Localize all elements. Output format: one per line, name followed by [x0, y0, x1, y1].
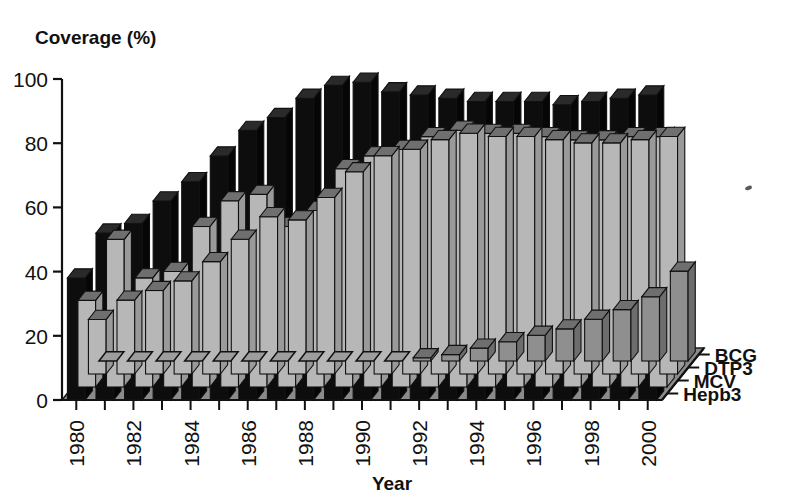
bar-front-face	[117, 300, 135, 374]
bar-mcv-1992	[431, 130, 456, 374]
bar-front-face	[470, 348, 488, 361]
bar-mcv-1987	[288, 211, 313, 374]
y-axis-tick-label: 20	[25, 325, 48, 348]
bar-front-face	[88, 319, 106, 374]
x-axis-tick-label: 2000	[637, 420, 660, 467]
bar-front-face	[528, 335, 546, 361]
bar-hepb3-1996	[556, 320, 581, 361]
bar-mcv-1986	[260, 208, 285, 374]
x-axis-tick-label: 1994	[465, 420, 488, 467]
x-axis-tick-label: 1982	[122, 420, 145, 467]
bar-front-face	[642, 297, 660, 361]
bar-front-face	[403, 149, 421, 374]
bar-hepb3-1995	[528, 326, 553, 361]
bar-mcv-1988	[317, 188, 342, 374]
bar-hepb3-1997	[585, 310, 610, 361]
bar-mcv-1991	[403, 140, 428, 374]
bar-side-face	[392, 147, 399, 374]
bar-front-face	[260, 217, 278, 374]
x-axis-tick-label: 1984	[180, 420, 203, 467]
y-axis-tick-label: 0	[36, 389, 48, 412]
bar-front-face	[556, 329, 574, 361]
bar-side-face	[278, 208, 285, 374]
bar-mcv-1989	[346, 163, 371, 374]
y-axis-tick-label: 40	[25, 261, 48, 284]
bar-front-face	[431, 140, 449, 374]
bar-side-face	[363, 163, 370, 374]
y-axis-title: Coverage (%)	[35, 27, 156, 48]
y-axis-tick-label: 100	[13, 68, 48, 91]
bar-front-face	[613, 310, 631, 361]
x-axis-tick-label: 1986	[237, 420, 260, 467]
x-axis-tick-label: 1990	[351, 420, 374, 467]
bar-hepb3-1994	[499, 333, 524, 361]
bar-side-face	[106, 310, 113, 374]
bar-hepb3-2000	[670, 262, 695, 361]
y-axis-tick-label: 80	[25, 132, 48, 155]
x-axis-tick-label: 1992	[408, 420, 431, 467]
bar-side-face	[660, 288, 667, 361]
series-label-hepb3: Hepb3	[683, 384, 741, 405]
x-axis-tick-label: 1996	[522, 420, 545, 467]
bar-front-face	[442, 355, 460, 361]
bar-side-face	[420, 140, 427, 374]
bar-front-face	[374, 156, 392, 374]
bar-side-face	[306, 211, 313, 374]
x-axis-tick-label: 1998	[580, 420, 603, 467]
bar-front-face	[585, 319, 603, 361]
x-axis-title: Year	[372, 473, 413, 494]
bar-mcv-1990	[374, 147, 399, 374]
chart-figure: Coverage (%) 020406080100 19801982198419…	[0, 0, 801, 501]
bar-front-face	[460, 133, 478, 374]
bar-side-face	[688, 262, 695, 361]
bar-side-face	[478, 124, 485, 374]
bar-mcv-1993	[460, 124, 485, 374]
bar-side-face	[335, 188, 342, 374]
bar-side-face	[449, 130, 456, 374]
bar-front-face	[317, 197, 335, 374]
bar-hepb3-1999	[642, 288, 667, 361]
bar-mcv-1980	[88, 310, 113, 374]
x-axis-tick-label: 1980	[65, 420, 88, 467]
x-axis-tick-label: 1988	[294, 420, 317, 467]
coverage-3d-bar-chart: Coverage (%) 020406080100 19801982198419…	[0, 0, 801, 501]
bar-front-face	[346, 172, 364, 374]
bar-side-face	[631, 300, 638, 361]
bar-front-face	[670, 271, 688, 361]
bar-hepb3-1998	[613, 300, 638, 361]
bar-front-face	[499, 342, 517, 361]
bar-front-face	[288, 220, 306, 374]
y-axis-tick-label: 60	[25, 196, 48, 219]
